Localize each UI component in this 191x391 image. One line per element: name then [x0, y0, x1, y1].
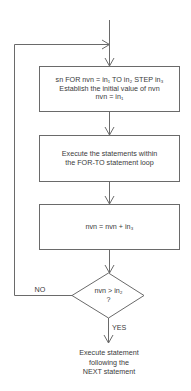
execute-line-2: the FOR-TO statement loop — [65, 159, 154, 168]
decision-text: nvn > in₂ ? — [78, 287, 139, 304]
exit-line-3: NEXT statement — [60, 367, 158, 377]
exit-line-1: Execute statement — [60, 348, 158, 358]
init-line-3: nvn = in₁ — [96, 93, 124, 102]
no-label: NO — [30, 286, 50, 295]
exit-text: Execute statement following the NEXT sta… — [60, 348, 158, 377]
increment-box: nvn = nvn + in₃ — [39, 204, 180, 250]
yes-label: YES — [112, 324, 132, 333]
execute-box: Execute the statements within the FOR-TO… — [39, 135, 180, 182]
increment-line: nvn = nvn + in₃ — [85, 223, 133, 232]
flowchart-connectors — [0, 0, 191, 391]
exit-line-2: following the — [60, 358, 158, 368]
init-box: sn FOR nvn = in₁ TO in₂ STEP in₃ Establi… — [39, 66, 180, 112]
decision-question-mark: ? — [78, 296, 139, 305]
